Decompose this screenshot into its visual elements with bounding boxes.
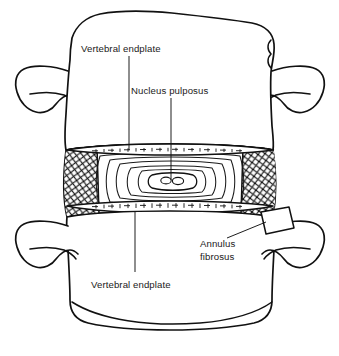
upper-vertebra-group xyxy=(16,11,325,150)
label-vertebral-endplate-top: Vertebral endplate xyxy=(81,43,161,54)
label-vertebral-endplate-bottom: Vertebral endplate xyxy=(91,279,171,290)
intervertebral-disc-illustration: Vertebral endplate Nucleus pulposus Annu… xyxy=(0,0,339,356)
label-nucleus-pulposus: Nucleus pulposus xyxy=(131,85,208,96)
lower-vertebral-body xyxy=(67,211,275,330)
anatomy-figure: Vertebral endplate Nucleus pulposus Annu… xyxy=(0,0,339,356)
upper-vertebral-body xyxy=(65,11,274,150)
label-annulus-fibrosus-line1: Annulus xyxy=(200,238,235,249)
label-annulus-fibrosus-line2: fibrosus xyxy=(200,251,234,262)
